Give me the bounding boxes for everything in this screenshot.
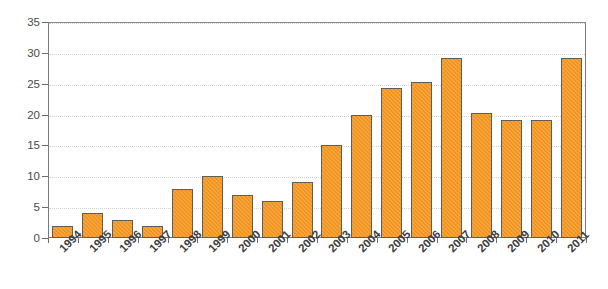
x-tick-label-2006: 2006	[416, 228, 443, 255]
x-tick-label-1997: 1997	[147, 228, 174, 255]
x-tick-label-2002: 2002	[296, 228, 323, 255]
x-tick-label-2011: 2011	[565, 228, 591, 254]
breeding-pairs-bar-chart: Number of breeding pairs 05101520253035 …	[0, 0, 608, 289]
x-tick-label-2005: 2005	[386, 228, 413, 255]
x-tick-label-2003: 2003	[326, 228, 353, 255]
x-tick-label-1994: 1994	[57, 228, 84, 255]
x-tick-label-1996: 1996	[117, 228, 144, 255]
x-tick-label-1999: 1999	[206, 228, 233, 255]
x-tick-label-2008: 2008	[475, 228, 502, 255]
x-axis: 1994199519961997199819992000200120022003…	[0, 0, 608, 289]
x-tick-mark	[48, 238, 49, 243]
x-tick-label-2004: 2004	[356, 228, 383, 255]
x-tick-label-1998: 1998	[177, 228, 204, 255]
x-tick-label-2010: 2010	[535, 228, 562, 255]
x-tick-label-2009: 2009	[505, 228, 532, 255]
x-tick-label-2007: 2007	[446, 228, 473, 255]
x-tick-label-2001: 2001	[266, 228, 293, 255]
x-tick-label-1995: 1995	[87, 228, 114, 255]
x-tick-label-2000: 2000	[236, 228, 263, 255]
